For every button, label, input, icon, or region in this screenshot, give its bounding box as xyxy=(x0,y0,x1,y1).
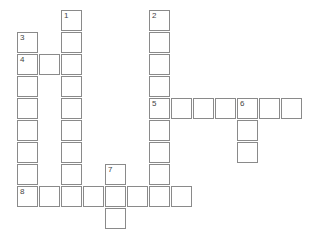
crossword-cell[interactable]: 2 xyxy=(149,10,170,31)
crossword-cell[interactable] xyxy=(61,54,82,75)
crossword-grid: 12534867 xyxy=(0,0,309,241)
clue-number: 6 xyxy=(240,99,244,108)
crossword-cell[interactable] xyxy=(149,142,170,163)
crossword-cell[interactable] xyxy=(215,98,236,119)
crossword-cell[interactable] xyxy=(83,186,104,207)
crossword-cell[interactable]: 1 xyxy=(61,10,82,31)
crossword-cell[interactable] xyxy=(149,186,170,207)
crossword-cell[interactable]: 5 xyxy=(149,98,170,119)
clue-number: 8 xyxy=(20,187,24,196)
crossword-cell[interactable] xyxy=(17,98,38,119)
crossword-cell[interactable] xyxy=(17,76,38,97)
crossword-cell[interactable] xyxy=(193,98,214,119)
crossword-cell[interactable] xyxy=(17,120,38,141)
crossword-cell[interactable] xyxy=(61,164,82,185)
crossword-cell[interactable] xyxy=(149,164,170,185)
crossword-cell[interactable] xyxy=(105,186,126,207)
crossword-cell[interactable] xyxy=(237,142,258,163)
clue-number: 2 xyxy=(152,11,156,20)
crossword-cell[interactable] xyxy=(281,98,302,119)
crossword-cell[interactable] xyxy=(237,120,258,141)
crossword-cell[interactable] xyxy=(127,186,148,207)
crossword-cell[interactable] xyxy=(171,186,192,207)
crossword-cell[interactable]: 4 xyxy=(17,54,38,75)
crossword-cell[interactable]: 3 xyxy=(17,32,38,53)
crossword-cell[interactable] xyxy=(149,76,170,97)
crossword-cell[interactable] xyxy=(61,98,82,119)
crossword-cell[interactable] xyxy=(259,98,280,119)
clue-number: 7 xyxy=(108,165,112,174)
clue-number: 3 xyxy=(20,33,24,42)
crossword-cell[interactable]: 7 xyxy=(105,164,126,185)
crossword-cell[interactable] xyxy=(17,142,38,163)
crossword-cell[interactable] xyxy=(105,208,126,229)
crossword-cell[interactable] xyxy=(149,54,170,75)
crossword-cell[interactable] xyxy=(149,120,170,141)
crossword-cell[interactable] xyxy=(149,32,170,53)
crossword-cell[interactable] xyxy=(39,54,60,75)
crossword-cell[interactable] xyxy=(17,164,38,185)
crossword-cell[interactable]: 6 xyxy=(237,98,258,119)
crossword-cell[interactable] xyxy=(61,32,82,53)
clue-number: 5 xyxy=(152,99,156,108)
crossword-cell[interactable] xyxy=(61,186,82,207)
crossword-cell[interactable] xyxy=(61,76,82,97)
crossword-cell[interactable] xyxy=(61,142,82,163)
crossword-cell[interactable]: 8 xyxy=(17,186,38,207)
crossword-cell[interactable] xyxy=(39,186,60,207)
clue-number: 1 xyxy=(64,11,68,20)
crossword-cell[interactable] xyxy=(171,98,192,119)
crossword-cell[interactable] xyxy=(61,120,82,141)
clue-number: 4 xyxy=(20,55,24,64)
